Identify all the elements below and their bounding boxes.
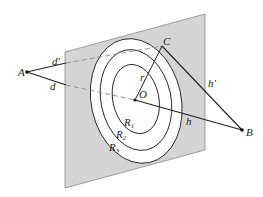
label-h-prime: h' [208, 77, 217, 89]
label-a: A [17, 66, 25, 78]
label-d: d [50, 80, 56, 92]
point-o [133, 98, 136, 101]
segment-d-prime-solid [27, 63, 66, 72]
point-a [25, 70, 29, 74]
label-c: C [163, 35, 171, 47]
segment-d-solid [27, 72, 66, 85]
fresnel-zone-diagram: A B C O d' d r h' h R1 R2 R3 [0, 0, 263, 197]
label-r: r [140, 71, 145, 83]
label-h: h [186, 115, 192, 127]
label-d-prime: d' [52, 55, 61, 67]
label-o: O [139, 88, 147, 100]
label-b: B [246, 126, 253, 138]
point-b [240, 128, 244, 132]
